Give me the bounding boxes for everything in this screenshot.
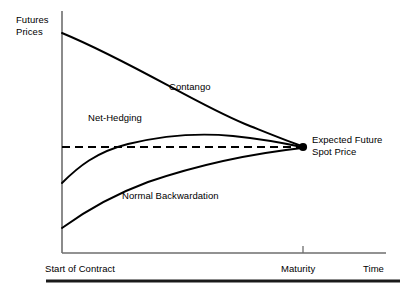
expected-label-line2: Spot Price: [312, 146, 356, 157]
normal-backwardation-curve: [62, 148, 302, 228]
net-hedging-curve-label: Net-Hedging: [88, 112, 142, 124]
futures-price-convergence-chart: FuturesPrices Contango Net-Hedging Norma…: [0, 0, 412, 296]
expected-label-line1: Expected Future: [312, 134, 382, 145]
x-axis-label-start-of-contract: Start of Contract: [45, 263, 115, 275]
net-hedging-curve: [62, 135, 302, 183]
normal-backwardation-curve-label: Normal Backwardation: [122, 190, 219, 202]
x-axis-title-time: Time: [363, 263, 384, 275]
x-axis-label-maturity: Maturity: [281, 263, 315, 275]
contango-curve-label: Contango: [169, 81, 211, 93]
y-axis-title-line1: Futures: [16, 14, 49, 25]
y-axis-title: FuturesPrices: [16, 14, 49, 37]
expected-future-spot-price-marker: [299, 143, 307, 151]
y-axis-title-line2: Prices: [16, 26, 43, 37]
expected-future-spot-price-label: Expected FutureSpot Price: [312, 134, 382, 157]
